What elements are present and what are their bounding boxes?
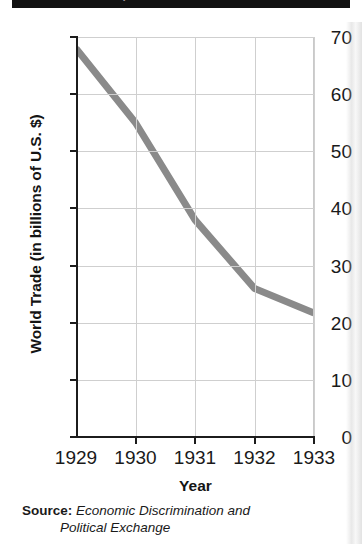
y-axis-line	[76, 36, 78, 438]
chart-figure: World Trade, 1929–1933 World Trade (in b…	[0, 0, 362, 544]
y-axis-tick	[70, 93, 77, 95]
x-axis-tick	[254, 438, 256, 444]
y-axis-tick	[70, 36, 77, 38]
x-axis-tick-label: 1933	[274, 448, 354, 467]
y-axis-tick	[70, 379, 77, 381]
source-title-line2: Political Exchange	[22, 520, 342, 537]
y-axis-tick	[70, 265, 77, 267]
y-axis-title: World Trade (in billions of U.S. $)	[27, 69, 45, 399]
source-title-line1: Economic Discrimination and	[76, 503, 250, 518]
y-axis-tick	[70, 322, 77, 324]
y-axis-tick	[70, 436, 77, 438]
chart-title-text: World Trade, 1929–1933	[22, 0, 219, 3]
y-axis-tick	[70, 150, 77, 152]
gridline-vertical	[255, 37, 256, 437]
x-axis-title: Year	[76, 477, 315, 495]
chart-title-banner: World Trade, 1929–1933	[12, 0, 350, 8]
x-axis-tick	[194, 438, 196, 444]
gridline-vertical	[195, 37, 196, 437]
x-axis-tick	[135, 438, 137, 444]
gridline-vertical	[136, 37, 137, 437]
source-label: Source:	[22, 503, 72, 518]
y-axis-tick	[70, 207, 77, 209]
source-note: Source: Economic Discrimination and Poli…	[22, 503, 342, 537]
plot-area	[76, 37, 314, 437]
scan-edge-artifact	[346, 22, 362, 544]
